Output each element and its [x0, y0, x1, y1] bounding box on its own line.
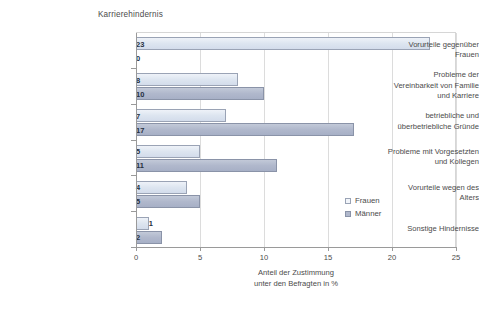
chart-title: Karrierehindernis [98, 10, 163, 19]
legend-swatch-icon-frauen [345, 198, 351, 204]
category-label-line: und Kollegen [353, 157, 479, 167]
bar-value-label: 5 [136, 147, 200, 156]
chart-legend: Frauen Männer [345, 196, 381, 222]
category-label-line: Vereinbarkeit von Familie [353, 81, 479, 91]
category-label: Vorurteile gegenüberFrauen [353, 40, 479, 60]
x-axis-ticks [136, 247, 456, 252]
bar-value-label: 11 [136, 161, 277, 170]
x-tick-mark [136, 247, 137, 251]
plot-area: 2308107175114512 [136, 32, 456, 247]
category-label: Probleme mit Vorgesetztenund Kollegen [353, 147, 479, 167]
category-label-line: betriebliche und [353, 111, 479, 121]
gridline [328, 33, 329, 247]
x-tick-label: 0 [134, 253, 138, 262]
x-axis-title-line: unter den Befragten in % [136, 279, 456, 290]
bar-frauen[interactable] [136, 217, 149, 230]
gridlines [136, 33, 455, 247]
x-tick-mark [200, 247, 201, 251]
bar-value-label: 1 [149, 219, 153, 228]
x-axis-title-line: Anteil der Zustimmung [136, 268, 456, 279]
x-tick-mark [264, 247, 265, 251]
category-label: Probleme derVereinbarkeit von Familieund… [353, 70, 479, 101]
y-tick-mark [131, 104, 136, 105]
bar-value-label: 4 [136, 183, 187, 192]
gridline [136, 33, 137, 247]
gridline [200, 33, 201, 247]
gridline [392, 33, 393, 247]
y-axis-ticks [131, 32, 136, 247]
bar-value-label: 0 [136, 53, 140, 62]
bar-value-label: 10 [136, 89, 264, 98]
bar-value-label: 5 [136, 197, 200, 206]
chart-container: Karrierehindernis 2308107175114512 Vorur… [0, 0, 479, 310]
x-tick-label: 20 [388, 253, 396, 262]
gridline [456, 33, 457, 247]
category-label: betriebliche undüberbetriebliche Gründe [353, 111, 479, 131]
category-label: Sonstige Hindernisse [353, 224, 479, 234]
legend-item-maenner[interactable]: Männer [345, 209, 381, 218]
x-tick-label: 15 [324, 253, 332, 262]
legend-label-frauen: Frauen [355, 196, 380, 205]
x-tick-mark [392, 247, 393, 251]
bar-value-label: 8 [136, 75, 238, 84]
y-tick-mark [131, 140, 136, 141]
x-tick-mark [328, 247, 329, 251]
bar-value-label: 2 [136, 233, 162, 242]
x-tick-mark [456, 247, 457, 251]
x-tick-label: 10 [260, 253, 268, 262]
category-label-line: Frauen [353, 50, 479, 60]
category-label-line: Sonstige Hindernisse [353, 224, 479, 234]
bar-value-label: 17 [136, 125, 354, 134]
category-label-line: Vorurteile gegenüber [353, 40, 479, 50]
y-tick-mark [131, 68, 136, 69]
gridline [264, 33, 265, 247]
category-label-line: Vorurteile wegen des [353, 183, 479, 193]
category-label-line: Probleme mit Vorgesetzten [353, 147, 479, 157]
legend-swatch-icon-maenner [345, 211, 351, 217]
category-label-line: und Karriere [353, 91, 479, 101]
x-axis-title: Anteil der Zustimmungunter den Befragten… [136, 268, 456, 289]
x-tick-label: 5 [198, 253, 202, 262]
y-tick-mark [131, 175, 136, 176]
bar-value-label: 7 [136, 111, 226, 120]
legend-item-frauen[interactable]: Frauen [345, 196, 381, 205]
y-tick-mark [131, 211, 136, 212]
x-tick-label: 25 [452, 253, 460, 262]
category-label-line: überbetriebliche Gründe [353, 122, 479, 132]
legend-label-maenner: Männer [355, 209, 381, 218]
y-tick-mark [131, 247, 136, 248]
category-label-line: Probleme der [353, 70, 479, 80]
